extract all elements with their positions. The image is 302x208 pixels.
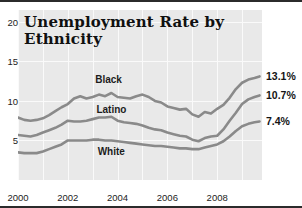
y-axis-tick-label: 10 <box>7 95 18 106</box>
x-axis-tick-label: 2004 <box>107 192 128 203</box>
series-line-black <box>18 76 260 120</box>
unemployment-rate-chart: Unemployment Rate by Ethnicity 2015105 2… <box>0 0 302 208</box>
x-axis-tick-label: 2008 <box>207 192 228 203</box>
end-value-latino: 10.7% <box>266 89 296 101</box>
x-axis-tick-label: 2006 <box>157 192 178 203</box>
series-label-black: Black <box>95 74 122 85</box>
chart-title-line-2: Ethnicity <box>24 31 230 48</box>
series-line-latino <box>18 95 260 141</box>
end-value-white: 7.4% <box>266 115 290 127</box>
y-axis-tick-label: 5 <box>13 135 18 146</box>
chart-title-line-1: Unemployment Rate by <box>24 14 230 31</box>
series-line-white <box>18 121 260 153</box>
end-value-black: 13.1% <box>266 70 296 82</box>
series-label-latino: Latino <box>96 104 126 115</box>
chart-title: Unemployment Rate by Ethnicity <box>24 14 230 48</box>
y-axis-tick-label: 15 <box>7 56 18 67</box>
series-label-white: White <box>98 146 125 157</box>
x-axis-tick-label: 2000 <box>7 192 28 203</box>
y-axis-tick-label: 20 <box>7 16 18 27</box>
x-axis-tick-label: 2002 <box>57 192 78 203</box>
